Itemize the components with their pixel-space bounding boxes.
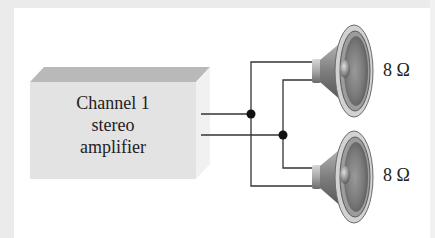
amplifier-label: Channel 1 stereo amplifier [30,92,196,158]
speaker-bottom-impedance-label: 8 Ω [383,165,410,186]
wire-bus-inner [283,80,314,168]
speaker-top-impedance-label: 8 Ω [383,60,410,81]
amplifier-label-line-2: stereo [30,114,196,136]
amplifier-side-face [196,67,210,179]
amplifier-label-line-1: Channel 1 [30,92,196,114]
junction-dot-2 [279,131,288,140]
amplifier-label-line-3: amplifier [30,136,196,158]
speaker-top-icon [312,25,373,117]
speaker-bottom-icon [312,131,373,223]
junction-dot-1 [247,110,256,119]
wiring [201,62,314,186]
amplifier-top-face [30,67,210,82]
